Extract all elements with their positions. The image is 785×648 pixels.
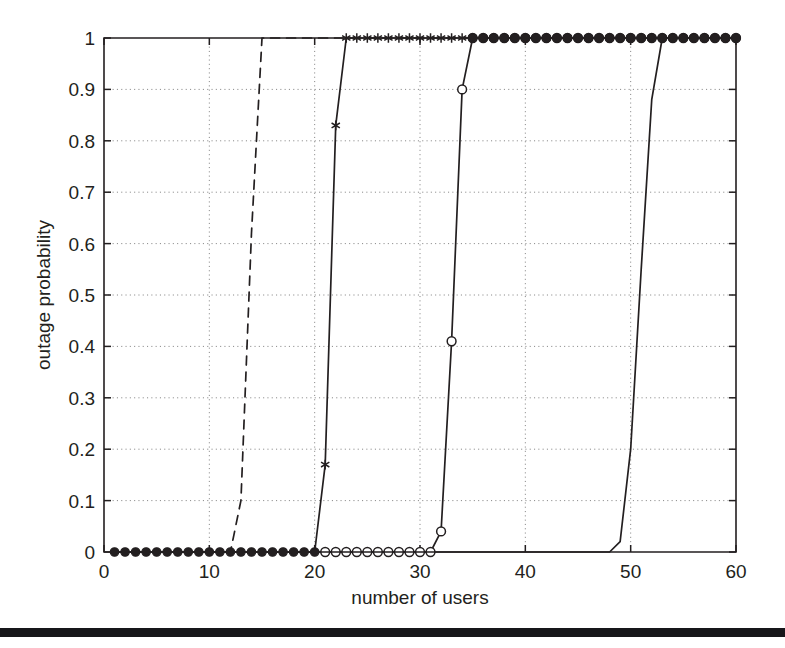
- marker-filled-circle: [700, 34, 708, 42]
- marker-filled-circle: [247, 548, 255, 556]
- marker-filled-circle: [268, 548, 276, 556]
- marker-filled-circle: [237, 548, 245, 556]
- marker-filled-circle: [174, 548, 182, 556]
- page-edge-bar: [0, 628, 785, 637]
- marker-filled-circle: [226, 548, 234, 556]
- gridlines: [104, 38, 736, 552]
- marker-filled-circle: [511, 34, 519, 42]
- marker-open-circle: [458, 85, 467, 94]
- marker-filled-circle: [521, 34, 529, 42]
- marker-filled-circle: [310, 548, 318, 556]
- y-axis-tick-labels: 00.10.20.30.40.50.60.70.80.91: [69, 28, 96, 563]
- x-axis-title: number of users: [351, 587, 488, 608]
- y-tick-label: 1: [84, 28, 95, 49]
- marker-filled-circle: [500, 34, 508, 42]
- y-tick-label: 0.4: [69, 336, 96, 357]
- marker-open-circle: [437, 527, 446, 536]
- marker-filled-circle: [553, 34, 561, 42]
- y-axis-title: outage probability: [33, 220, 54, 370]
- marker-filled-circle: [637, 34, 645, 42]
- marker-filled-circle: [195, 548, 203, 556]
- x-tick-label: 40: [515, 561, 536, 582]
- y-tick-label: 0.7: [69, 182, 95, 203]
- x-tick-label: 0: [99, 561, 110, 582]
- marker-filled-circle: [184, 548, 192, 556]
- marker-filled-circle: [584, 34, 592, 42]
- marker-filled-circle: [669, 34, 677, 42]
- marker-filled-circle: [490, 34, 498, 42]
- marker-filled-circle: [152, 548, 160, 556]
- marker-filled-circle: [131, 548, 139, 556]
- x-tick-label: 10: [199, 561, 220, 582]
- marker-filled-circle: [563, 34, 571, 42]
- x-tick-label: 60: [725, 561, 746, 582]
- marker-filled-circle: [690, 34, 698, 42]
- marker-filled-circle: [679, 34, 687, 42]
- marker-filled-circle: [626, 34, 634, 42]
- marker-filled-circle: [542, 34, 550, 42]
- y-tick-label: 0: [84, 542, 95, 563]
- marker-filled-circle: [605, 34, 613, 42]
- marker-filled-circle: [163, 548, 171, 556]
- marker-filled-circle: [205, 548, 213, 556]
- marker-filled-circle: [300, 548, 308, 556]
- marker-filled-circle: [658, 34, 666, 42]
- y-tick-label: 0.5: [69, 285, 95, 306]
- y-tick-label: 0.8: [69, 131, 95, 152]
- x-tick-label: 20: [304, 561, 325, 582]
- marker-filled-circle: [479, 34, 487, 42]
- outage-probability-chart: 00.10.20.30.40.50.60.70.80.91 0102030405…: [0, 0, 785, 648]
- series-series-2-star: [115, 33, 741, 552]
- y-tick-label: 0.6: [69, 234, 95, 255]
- x-tick-label: 30: [409, 561, 430, 582]
- marker-filled-circle: [616, 34, 624, 42]
- marker-filled-circle: [574, 34, 582, 42]
- y-tick-label: 0.1: [69, 491, 95, 512]
- marker-filled-circle: [216, 548, 224, 556]
- y-tick-label: 0.3: [69, 388, 95, 409]
- marker-filled-circle: [532, 34, 540, 42]
- marker-filled-circle: [142, 548, 150, 556]
- marker-filled-circle: [258, 548, 266, 556]
- y-tick-label: 0.9: [69, 79, 95, 100]
- marker-filled-circle: [279, 548, 287, 556]
- marker-filled-circle: [711, 34, 719, 42]
- marker-filled-circle: [721, 34, 729, 42]
- figure-canvas: 00.10.20.30.40.50.60.70.80.91 0102030405…: [0, 0, 785, 648]
- marker-filled-circle: [732, 34, 740, 42]
- marker-filled-circle: [121, 548, 129, 556]
- x-tick-label: 50: [620, 561, 641, 582]
- y-tick-label: 0.2: [69, 439, 95, 460]
- marker-filled-circle: [468, 34, 476, 42]
- marker-open-circle: [447, 337, 456, 346]
- marker-filled-circle: [648, 34, 656, 42]
- marker-filled-circle: [595, 34, 603, 42]
- x-axis-tick-labels: 0102030405060: [99, 561, 747, 582]
- marker-filled-circle: [110, 548, 118, 556]
- marker-star: [321, 460, 329, 470]
- marker-star: [332, 121, 340, 131]
- marker-filled-circle: [289, 548, 297, 556]
